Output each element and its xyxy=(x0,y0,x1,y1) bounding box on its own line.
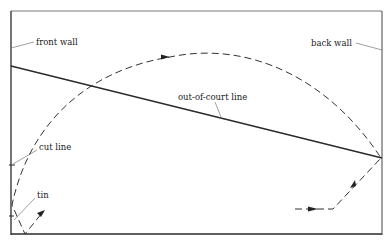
cut-line-label: cut line xyxy=(39,142,71,152)
out-of-court-line-label: out-of-court line xyxy=(178,92,247,102)
tin-label: tin xyxy=(37,190,49,200)
arrow-icon xyxy=(350,180,356,188)
back-wall-leader xyxy=(356,43,382,50)
arrow-icon xyxy=(37,210,45,217)
front-wall-leader xyxy=(11,42,34,48)
tin-leader xyxy=(14,198,35,220)
out-of-court-leader xyxy=(215,102,221,117)
arrow-icon xyxy=(308,207,318,212)
cut-line-leader xyxy=(13,150,37,164)
back-wall-label: back wall xyxy=(311,38,352,48)
squash-court-diagram: front wall back wall out-of-court line c… xyxy=(0,0,391,243)
arrow-icon xyxy=(161,55,170,60)
front-wall-label: front wall xyxy=(36,37,78,47)
